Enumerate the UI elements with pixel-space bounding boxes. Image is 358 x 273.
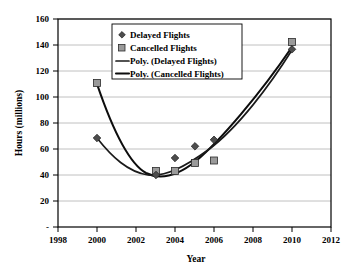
point-cancelled-2004 [172, 168, 179, 175]
point-cancelled-2010 [289, 39, 296, 46]
legend-label-poly-delayed: Poly. (Delayed Flights) [130, 56, 217, 66]
x-label-2012: 2012 [322, 235, 341, 245]
y-label-160: 160 [36, 14, 50, 24]
x-label-2000: 2000 [88, 235, 107, 245]
x-label-2006: 2006 [205, 235, 224, 245]
flights-scatter-chart: 160 140 120 100 80 60 40 20 - 1998 2000 … [0, 0, 358, 273]
point-cancelled-2000 [94, 80, 101, 87]
y-label-140: 140 [36, 40, 50, 50]
y-label-20: 20 [40, 196, 50, 206]
y-label-0: - [46, 222, 49, 232]
y-label-60: 60 [40, 144, 50, 154]
y-label-80: 80 [40, 118, 50, 128]
y-label-120: 120 [36, 66, 50, 76]
legend-label-poly-cancelled: Poly. (Cancelled Flights) [130, 69, 224, 79]
x-label-2008: 2008 [244, 235, 263, 245]
y-axis-title: Hours (millions) [14, 90, 25, 156]
x-label-2010: 2010 [283, 235, 302, 245]
x-axis-title: Year [187, 254, 207, 264]
chart-legend: Delayed Flights Cancelled Flights Poly. … [112, 24, 242, 79]
chart-container: 160 140 120 100 80 60 40 20 - 1998 2000 … [0, 0, 358, 273]
legend-square-icon [119, 45, 126, 52]
legend-label-delayed-flights: Delayed Flights [130, 30, 190, 40]
y-label-100: 100 [36, 92, 50, 102]
x-label-2004: 2004 [166, 235, 185, 245]
y-label-40: 40 [40, 170, 50, 180]
point-cancelled-2005 [192, 160, 199, 167]
x-label-2002: 2002 [127, 235, 146, 245]
point-cancelled-2006 [211, 157, 218, 164]
x-label-1998: 1998 [49, 235, 68, 245]
legend-label-cancelled-flights: Cancelled Flights [130, 43, 197, 53]
